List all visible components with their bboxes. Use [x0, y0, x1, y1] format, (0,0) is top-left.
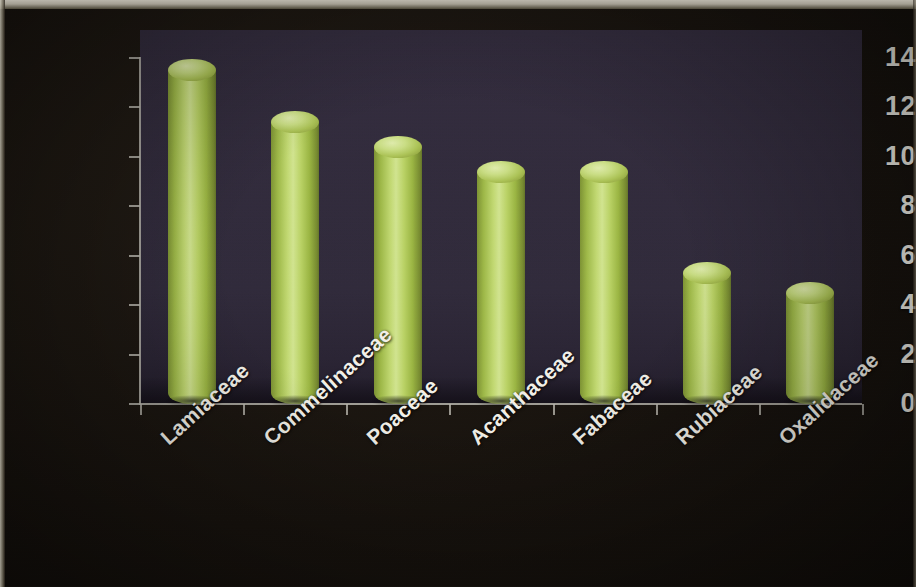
y-axis-tick [129, 57, 140, 59]
x-axis-tick [243, 404, 245, 415]
bar[interactable] [168, 70, 216, 404]
bar-top-cap [580, 161, 628, 183]
x-axis-tick [759, 404, 761, 415]
bar-top-cap [683, 262, 731, 284]
scan-edge-left [0, 0, 5, 587]
y-axis-tick-label: 6 [830, 242, 916, 269]
x-axis-tick [656, 404, 658, 415]
y-axis-tick [129, 354, 140, 356]
bar-top-cap [786, 282, 834, 304]
y-axis-line [139, 57, 141, 404]
bar[interactable] [374, 147, 422, 404]
bar[interactable] [477, 172, 525, 404]
chart-screenshot: 02468101214 LamiaceaeCommelinaceaePoacea… [0, 0, 916, 587]
y-axis-tick [129, 304, 140, 306]
scan-edge-top [0, 0, 916, 9]
y-axis-tick [129, 255, 140, 257]
x-axis-tick [449, 404, 451, 415]
bar[interactable] [271, 122, 319, 404]
x-axis-tick [140, 404, 142, 415]
y-axis-tick-label: 12 [830, 93, 916, 120]
y-axis-tick-label: 4 [830, 291, 916, 318]
y-axis-tick-label: 14 [830, 44, 916, 71]
y-axis-tick [129, 403, 140, 405]
bar-top-cap [477, 161, 525, 183]
bar-chart: 02468101214 LamiaceaeCommelinaceaePoacea… [0, 0, 916, 587]
bar-top-cap [271, 111, 319, 133]
bar-top-cap [168, 59, 216, 81]
y-axis-tick [129, 106, 140, 108]
bar-top-cap [374, 136, 422, 158]
y-axis-tick-label: 8 [830, 192, 916, 219]
y-axis-tick [129, 156, 140, 158]
y-axis-tick-label: 10 [830, 143, 916, 170]
x-axis-tick [553, 404, 555, 415]
x-axis-tick [346, 404, 348, 415]
x-axis-tick [862, 404, 864, 415]
bar[interactable] [580, 172, 628, 404]
y-axis-tick [129, 205, 140, 207]
